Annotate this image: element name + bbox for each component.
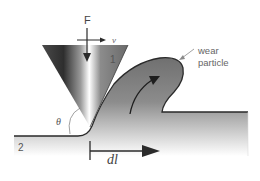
angle-arc [69, 108, 80, 134]
wear-particle-label: wear particle [198, 45, 229, 69]
wear-diagram: F v 1 2 θ dl wear particle [0, 0, 260, 181]
displacement-label: dl [107, 153, 118, 167]
diagram-graphic [0, 0, 260, 181]
body-1-label: 1 [110, 55, 116, 65]
velocity-label: v [112, 36, 116, 45]
force-label: F [84, 15, 91, 26]
wear-particle-label-line1: wear [198, 45, 229, 57]
leader-line [179, 49, 194, 60]
angle-label: θ [56, 117, 61, 127]
velocity-arrow [77, 38, 106, 43]
wear-particle-label-line2: particle [198, 57, 229, 69]
body-2-label: 2 [18, 143, 24, 153]
substrate [14, 58, 248, 156]
